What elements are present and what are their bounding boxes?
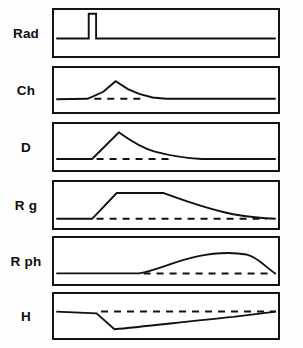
trace-label-rg: R g <box>0 198 52 213</box>
trace-plot-d <box>54 124 278 170</box>
trace-line-ch <box>56 81 276 99</box>
trace-label-rad: Rad <box>0 26 52 41</box>
trace-line-rad <box>56 14 276 39</box>
trace-row-d: D <box>0 122 303 172</box>
trace-plot-ch <box>54 68 278 112</box>
trace-plot-h <box>54 294 278 338</box>
trace-panel-ch <box>52 66 280 114</box>
trace-line-h <box>56 312 276 330</box>
trace-line-d <box>56 132 276 159</box>
trace-label-h: H <box>0 309 52 324</box>
trace-label-d: D <box>0 140 52 155</box>
trace-line-rg <box>56 193 276 219</box>
trace-panel-rad <box>52 8 280 58</box>
trace-panel-rg <box>52 180 280 230</box>
trace-row-ch: Ch <box>0 66 303 114</box>
trace-row-rg: R g <box>0 180 303 230</box>
trace-panel-h <box>52 292 280 340</box>
trace-row-h: H <box>0 292 303 340</box>
trace-plot-rad <box>54 10 278 56</box>
trace-row-rad: Rad <box>0 8 303 58</box>
trace-label-ch: Ch <box>0 83 52 98</box>
trace-line-rph <box>56 253 276 274</box>
trace-plot-rph <box>54 238 278 284</box>
trace-plot-rg <box>54 182 278 228</box>
trace-label-rph: R ph <box>0 254 52 269</box>
signal-trace-figure: Rad Ch D R g <box>0 0 303 348</box>
trace-panel-rph <box>52 236 280 286</box>
trace-panel-d <box>52 122 280 172</box>
trace-row-rph: R ph <box>0 236 303 286</box>
